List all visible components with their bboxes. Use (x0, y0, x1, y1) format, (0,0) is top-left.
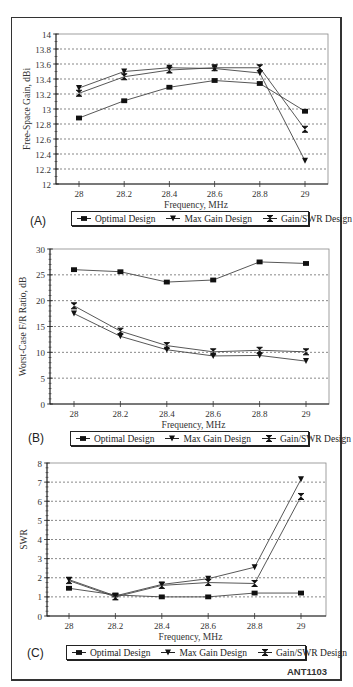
panel-label-b: (B) (28, 431, 44, 445)
legend-item-optimal: Optimal Design (71, 648, 150, 658)
svg-text:28.6: 28.6 (207, 189, 223, 199)
legend-item-optimal: Optimal Design (75, 434, 154, 444)
svg-text:5: 5 (38, 516, 43, 526)
legend-c: Optimal Design Max Gain Design Gain/SWR … (66, 645, 306, 660)
legend-label: Max Gain Design (183, 434, 251, 444)
svg-text:14: 14 (42, 30, 52, 40)
chart-b: 0510152025302828.228.428.628.829Frequenc… (18, 245, 329, 431)
svg-text:28.8: 28.8 (252, 409, 268, 419)
svg-text:29: 29 (302, 409, 312, 419)
svg-text:28.4: 28.4 (159, 409, 175, 419)
legend-label: Max Gain Design (184, 214, 252, 224)
hourglass-marker-icon (262, 214, 281, 223)
hourglass-marker-icon (257, 648, 276, 657)
svg-text:13.4: 13.4 (35, 75, 51, 85)
svg-text:15: 15 (36, 322, 46, 332)
svg-text:28: 28 (70, 409, 80, 419)
svg-text:SWR: SWR (19, 529, 29, 550)
svg-text:Frequency, MHz: Frequency, MHz (159, 632, 223, 642)
square-marker-icon (71, 648, 90, 657)
svg-text:7: 7 (38, 478, 43, 488)
square-marker-icon (75, 434, 94, 443)
svg-text:4: 4 (38, 535, 43, 545)
svg-text:13.2: 13.2 (35, 90, 51, 100)
svg-text:Frequency, MHz: Frequency, MHz (162, 420, 226, 430)
svg-text:5: 5 (41, 374, 46, 384)
legend-label: Optimal Design (95, 214, 155, 224)
svg-text:28.4: 28.4 (162, 189, 178, 199)
svg-text:0: 0 (41, 400, 46, 410)
panel-label-a: (A) (30, 214, 46, 228)
legend-label: Gain/SWR Design (281, 214, 352, 224)
svg-text:29: 29 (297, 621, 307, 631)
charts-canvas: 1212.212.412.612.81313.213.413.613.81428… (0, 0, 353, 687)
svg-text:0: 0 (38, 612, 43, 622)
svg-text:28.4: 28.4 (154, 621, 170, 631)
legend-item-gain-swr: Gain/SWR Design (257, 648, 347, 658)
svg-text:28: 28 (65, 621, 75, 631)
svg-text:13: 13 (42, 105, 52, 115)
svg-text:6: 6 (38, 497, 43, 507)
legend-item-optimal: Optimal Design (76, 214, 155, 224)
chart-a: 1212.212.412.612.81313.213.413.613.81428… (22, 30, 328, 211)
svg-text:10: 10 (36, 348, 46, 358)
legend-a: Optimal Design Max Gain Design Gain/SWR … (71, 211, 309, 226)
svg-text:2: 2 (38, 573, 43, 583)
chart-c: 0123456782828.228.428.628.829Frequency, … (19, 459, 326, 643)
svg-text:1: 1 (38, 592, 43, 602)
svg-text:28.6: 28.6 (205, 409, 221, 419)
svg-text:28.8: 28.8 (247, 621, 263, 631)
svg-text:12.4: 12.4 (35, 150, 51, 160)
svg-text:28: 28 (75, 189, 85, 199)
svg-text:28.2: 28.2 (116, 189, 132, 199)
legend-label: Optimal Design (90, 648, 150, 658)
legend-label: Gain/SWR Design (280, 434, 351, 444)
hourglass-marker-icon (261, 434, 280, 443)
svg-text:28.8: 28.8 (252, 189, 268, 199)
legend-label: Gain/SWR Design (276, 648, 347, 658)
svg-text:20: 20 (36, 296, 46, 306)
svg-text:8: 8 (38, 459, 43, 469)
legend-label: Optimal Design (94, 434, 154, 444)
svg-text:29: 29 (301, 189, 311, 199)
legend-item-max-gain: Max Gain Design (164, 434, 251, 444)
svg-text:25: 25 (36, 270, 46, 280)
svg-text:Free-Space Gain, dBi: Free-Space Gain, dBi (22, 68, 32, 150)
square-marker-icon (76, 214, 95, 223)
svg-text:28.2: 28.2 (113, 409, 129, 419)
svg-text:28.2: 28.2 (108, 621, 124, 631)
svg-text:30: 30 (36, 245, 46, 255)
svg-text:12.2: 12.2 (35, 165, 51, 175)
legend-item-max-gain: Max Gain Design (165, 214, 252, 224)
legend-label: Max Gain Design (179, 648, 247, 658)
triangle-down-marker-icon (160, 648, 179, 657)
figure-id: ANT1103 (287, 666, 327, 677)
svg-text:Worst-Case F/R Ratio, dB: Worst-Case F/R Ratio, dB (18, 277, 28, 377)
legend-item-max-gain: Max Gain Design (160, 648, 247, 658)
triangle-down-marker-icon (164, 434, 183, 443)
panel-label-c: (C) (27, 646, 44, 660)
legend-item-gain-swr: Gain/SWR Design (262, 214, 352, 224)
svg-text:12.8: 12.8 (35, 120, 51, 130)
svg-text:Frequency, MHz: Frequency, MHz (164, 200, 228, 210)
legend-item-gain-swr: Gain/SWR Design (261, 434, 351, 444)
svg-text:3: 3 (38, 554, 43, 564)
svg-text:28.6: 28.6 (200, 621, 216, 631)
svg-text:13.6: 13.6 (35, 60, 51, 70)
svg-text:13.8: 13.8 (35, 45, 51, 55)
svg-text:12: 12 (42, 180, 51, 190)
svg-text:12.6: 12.6 (35, 135, 51, 145)
triangle-down-marker-icon (165, 214, 184, 223)
legend-b: Optimal Design Max Gain Design Gain/SWR … (70, 431, 309, 446)
